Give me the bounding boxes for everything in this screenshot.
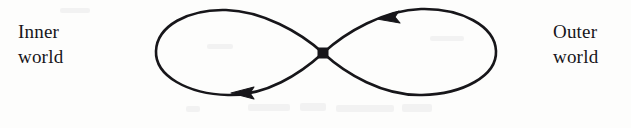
inner-world-label: Inner world [18, 19, 63, 69]
left-lobe [156, 10, 323, 95]
inner-world-label-line1: Inner [18, 19, 63, 44]
inner-world-label-line2: world [18, 44, 63, 69]
lower-left-arrowhead [231, 87, 254, 99]
right-lobe [323, 9, 496, 95]
outer-world-label-line1: Outer [553, 19, 598, 44]
figure-root: Inner world Outer world [0, 0, 631, 128]
lemniscate-diagram [0, 0, 631, 128]
outer-world-label-line2: world [553, 44, 598, 69]
crossing-node [318, 48, 329, 59]
outer-world-label: Outer world [553, 19, 598, 69]
